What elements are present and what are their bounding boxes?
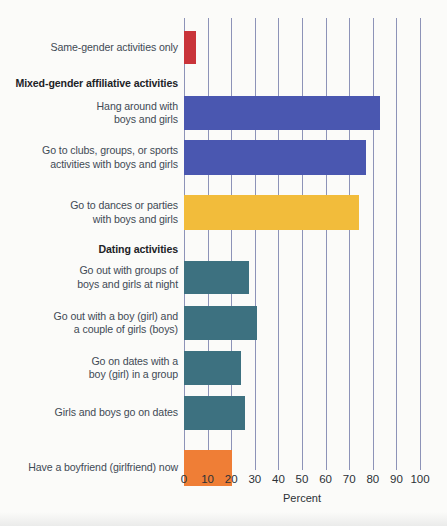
x-axis-tick-labels: 0102030405060708090100 <box>0 472 447 490</box>
x-tick-90: 90 <box>390 472 403 486</box>
bar <box>184 140 366 175</box>
x-tick-60: 60 <box>319 472 332 486</box>
bar-category-label: Girls and boys go on dates <box>0 406 178 419</box>
bar <box>184 351 241 385</box>
x-axis-title: Percent <box>184 492 420 504</box>
bar-row: Go to dances or parties with boys and gi… <box>0 195 447 230</box>
x-tick-100: 100 <box>410 472 429 486</box>
bar-category-label: Hang around with boys and girls <box>0 100 178 126</box>
bar-row: Same-gender activities only <box>0 31 447 64</box>
group-header-label: Mixed-gender affiliative activities <box>0 77 178 90</box>
x-tick-0: 0 <box>181 472 187 486</box>
bar <box>184 261 249 294</box>
bar-row: Go out with groups of boys and girls at … <box>0 261 447 294</box>
x-tick-50: 50 <box>296 472 309 486</box>
bar-category-label: Go on dates with a boy (girl) in a group <box>0 355 178 381</box>
bar-row: Girls and boys go on dates <box>0 396 447 430</box>
bar <box>184 96 380 130</box>
page-edge-artifact <box>0 512 447 526</box>
x-tick-70: 70 <box>343 472 356 486</box>
bar-row: Go out with a boy (girl) and a couple of… <box>0 306 447 340</box>
group-header-row: Dating activities <box>0 240 447 260</box>
bar-category-label: Go to dances or parties with boys and gi… <box>0 199 178 225</box>
horizontal-bar-chart: Same-gender activities onlyMixed-gender … <box>0 0 447 526</box>
x-tick-10: 10 <box>201 472 214 486</box>
bar <box>184 31 196 64</box>
bar-category-label: Go out with groups of boys and girls at … <box>0 264 178 290</box>
bar-category-label: Go to clubs, groups, or sports activitie… <box>0 144 178 170</box>
x-tick-30: 30 <box>248 472 261 486</box>
bar <box>184 195 359 230</box>
bar <box>184 396 245 430</box>
x-tick-20: 20 <box>225 472 238 486</box>
x-tick-40: 40 <box>272 472 285 486</box>
bar-row: Hang around with boys and girls <box>0 96 447 130</box>
bar-row: Go to clubs, groups, or sports activitie… <box>0 140 447 175</box>
group-header-label: Dating activities <box>0 243 178 256</box>
bar-row: Go on dates with a boy (girl) in a group <box>0 351 447 385</box>
bar-category-label: Same-gender activities only <box>0 41 178 54</box>
x-tick-80: 80 <box>366 472 379 486</box>
bar-category-label: Go out with a boy (girl) and a couple of… <box>0 310 178 336</box>
bar-rows: Same-gender activities onlyMixed-gender … <box>0 18 447 470</box>
group-header-row: Mixed-gender affiliative activities <box>0 74 447 94</box>
bar <box>184 306 257 340</box>
